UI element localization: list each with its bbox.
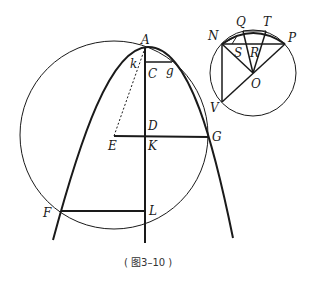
label-k: k	[130, 57, 137, 71]
label-o: O	[251, 77, 261, 91]
label-n: N	[207, 29, 219, 43]
label-p: P	[287, 31, 297, 45]
label-k-upper: K	[147, 139, 158, 153]
inset-figure	[210, 30, 296, 116]
geometry-diagram: A k C g D E K G F L Q T N P S R O V ( 图3…	[0, 0, 312, 285]
segment-ekg	[114, 136, 209, 137]
label-q: Q	[236, 15, 246, 29]
label-d: D	[147, 119, 158, 133]
label-g: g	[166, 64, 174, 78]
label-t: T	[263, 15, 272, 29]
label-e: E	[107, 139, 117, 153]
label-g-upper: G	[212, 130, 222, 144]
label-r: R	[249, 46, 259, 60]
figure-caption: ( 图3–10 )	[124, 257, 172, 268]
label-s: S	[234, 46, 242, 60]
label-f: F	[42, 206, 52, 220]
label-c: C	[148, 67, 157, 81]
label-v: V	[210, 101, 220, 115]
label-a: A	[140, 33, 150, 47]
label-l: L	[148, 204, 157, 218]
